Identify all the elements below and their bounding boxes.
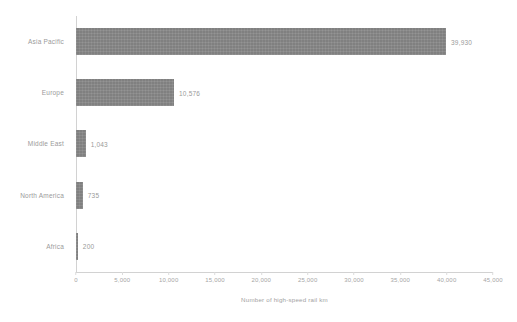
bar-europe[interactable]: 10,576	[76, 79, 174, 106]
tick-mark-icon	[75, 272, 76, 275]
bar-row: 1,043	[76, 118, 493, 169]
x-axis-ticks: 0 5,000 10,000 15,000 20,000 25,000 30,0…	[76, 272, 493, 292]
x-tick: 20,000	[252, 272, 272, 283]
plot-area: 39,930 10,576 1,043 735 200	[76, 16, 493, 272]
x-tick-label: 20,000	[252, 277, 272, 283]
bar-value-label: 735	[88, 192, 99, 199]
tick-mark-icon	[493, 272, 494, 275]
bar-north-america[interactable]: 735	[76, 182, 83, 209]
x-tick: 0	[74, 272, 78, 283]
bar-middle-east[interactable]: 1,043	[76, 130, 86, 157]
category-label-middle-east: Middle East	[0, 118, 70, 169]
x-tick-label: 0	[74, 277, 78, 283]
bar-row: 735	[76, 170, 493, 221]
bar-row: 200	[76, 221, 493, 272]
bar-asia-pacific[interactable]: 39,930	[76, 28, 446, 55]
bar-row: 39,930	[76, 16, 493, 67]
bar-value-label: 39,930	[451, 38, 472, 45]
tick-mark-icon	[446, 272, 447, 275]
x-tick-label: 45,000	[483, 277, 503, 283]
bar-value-label: 200	[83, 243, 94, 250]
x-tick-label: 25,000	[298, 277, 318, 283]
x-tick: 35,000	[391, 272, 411, 283]
x-tick-label: 40,000	[437, 277, 457, 283]
tick-mark-icon	[122, 272, 123, 275]
x-tick-label: 5,000	[114, 277, 130, 283]
x-tick: 30,000	[344, 272, 364, 283]
category-label-africa: Africa	[0, 221, 70, 272]
x-tick: 45,000	[483, 272, 503, 283]
tick-mark-icon	[307, 272, 308, 275]
category-label-europe: Europe	[0, 67, 70, 118]
bar-row: 10,576	[76, 67, 493, 118]
x-tick: 40,000	[437, 272, 457, 283]
category-label-north-america: North America	[0, 170, 70, 221]
bar-value-label: 1,043	[91, 140, 108, 147]
bar-africa[interactable]: 200	[76, 233, 78, 260]
category-label-asia-pacific: Asia Pacific	[0, 16, 70, 67]
bar-chart: Asia Pacific Europe Middle East North Am…	[0, 0, 517, 322]
tick-mark-icon	[215, 272, 216, 275]
x-tick: 5,000	[114, 272, 130, 283]
category-axis-labels: Asia Pacific Europe Middle East North Am…	[0, 16, 70, 272]
x-tick: 15,000	[205, 272, 225, 283]
x-tick-label: 15,000	[205, 277, 225, 283]
x-tick-label: 35,000	[391, 277, 411, 283]
tick-mark-icon	[400, 272, 401, 275]
x-axis-title: Number of high-speed rail km	[76, 296, 493, 303]
x-tick: 10,000	[159, 272, 179, 283]
tick-mark-icon	[354, 272, 355, 275]
x-tick-label: 10,000	[159, 277, 179, 283]
tick-mark-icon	[168, 272, 169, 275]
x-tick: 25,000	[298, 272, 318, 283]
x-tick-label: 30,000	[344, 277, 364, 283]
tick-mark-icon	[261, 272, 262, 275]
bar-value-label: 10,576	[179, 89, 200, 96]
